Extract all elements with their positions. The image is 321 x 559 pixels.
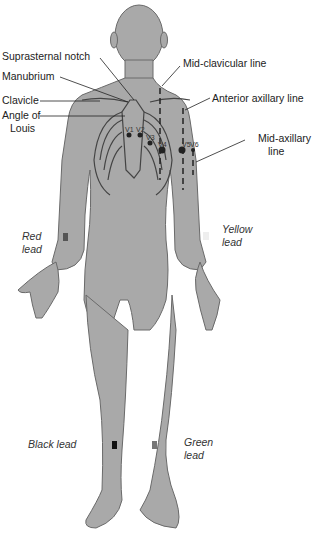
label-yellow-lead-1: Yellow	[222, 223, 252, 236]
label-mid-axillary-1: Mid-axillary	[258, 132, 311, 145]
label-black-lead: Black lead	[28, 438, 76, 451]
label-suprasternal-notch: Suprasternal notch	[2, 50, 90, 63]
svg-text:V2: V2	[136, 126, 145, 133]
svg-text:V3: V3	[146, 134, 155, 141]
label-anterior-axillary: Anterior axillary line	[212, 92, 304, 105]
label-mid-clavicular: Mid-clavicular line	[183, 57, 266, 70]
label-yellow-lead-2: lead	[222, 236, 242, 249]
label-angle-of-louis-2: Louis	[10, 122, 35, 135]
label-green-lead-1: Green	[184, 436, 213, 449]
label-red-lead-1: Red	[22, 230, 41, 243]
label-red-lead-2: lead	[22, 243, 42, 256]
body-figure: V1 V2 V3 V4 V5 V6	[0, 0, 321, 559]
svg-text:V1: V1	[125, 126, 134, 133]
red-lead-marker	[63, 233, 68, 241]
label-angle-of-louis-1: Angle of	[2, 109, 41, 122]
label-mid-axillary-2: line	[268, 145, 284, 158]
green-lead-marker	[152, 441, 157, 449]
left-leg	[86, 295, 128, 528]
head	[115, 5, 163, 67]
label-green-lead-2: lead	[184, 449, 204, 462]
svg-text:V4: V4	[158, 141, 167, 148]
svg-text:V6: V6	[190, 141, 199, 148]
label-clavicle: Clavicle	[2, 94, 39, 107]
black-lead-marker	[112, 441, 117, 449]
yellow-lead-marker	[203, 232, 209, 240]
label-manubrium: Manubrium	[2, 70, 55, 83]
